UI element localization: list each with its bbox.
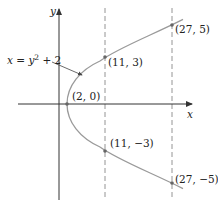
point-2-0 — [65, 102, 69, 106]
point-label-11-neg3: (11, −3) — [110, 137, 154, 149]
point-label-11-3: (11, 3) — [108, 56, 143, 68]
point-label-2-0: (2, 0) — [72, 90, 100, 102]
point-27-5 — [170, 23, 174, 27]
point-label-27-5: (27, 5) — [175, 23, 210, 35]
y-axis-label: y — [49, 5, 57, 17]
point-11-neg3 — [103, 149, 107, 153]
point-11-3 — [103, 55, 107, 59]
parabola-diagram: y x x = y2 + 2 (2, 0) (11, 3) (27, 5) (1… — [0, 0, 218, 205]
point-27-neg5 — [170, 181, 174, 185]
x-axis-label: x — [187, 108, 193, 120]
point-label-27-neg5: (27, −5) — [175, 173, 218, 185]
equation-label: x = y2 + 2 — [7, 53, 61, 66]
